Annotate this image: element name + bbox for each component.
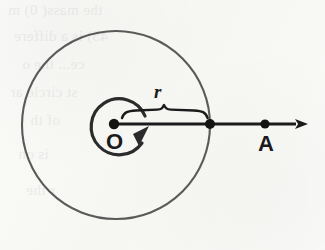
point-A-dot <box>260 119 269 128</box>
point-circle-intersection-dot <box>205 119 215 129</box>
center-label-O: O <box>106 131 123 153</box>
point-O-dot <box>109 119 119 129</box>
geometry-drawing <box>0 0 325 250</box>
figure-canvas: the mass( 0) m 45) is a differe ce... th… <box>0 0 325 250</box>
radius-label: r <box>154 82 161 101</box>
radius-brace <box>122 105 208 118</box>
point-label-A: A <box>258 133 274 155</box>
